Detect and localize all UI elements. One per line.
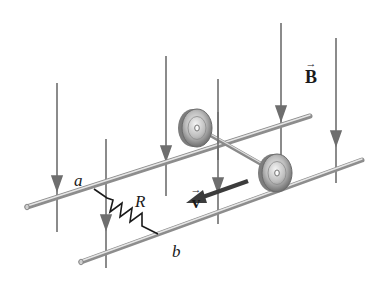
vector-arrow-icon: → [303,60,319,67]
field-line-1-arrowhead [52,176,62,190]
label-v: v [192,193,201,212]
field-line-3-arrowhead [161,146,171,160]
magnetic-induction-diagram [0,0,376,283]
field-line-5-arrowhead [276,106,286,120]
label-velocity: → v [189,186,203,211]
vector-arrow-icon: → [189,186,203,193]
label-rail-b: b [172,243,181,260]
label-resistor: R [135,193,145,210]
field-line-6-arrowhead [331,131,341,145]
field-line-2-arrowhead [101,215,111,229]
label-rail-a: a [74,172,83,189]
label-B: B [305,67,317,87]
wheel-left [178,109,212,147]
wheel-right [258,154,292,192]
label-magnetic-field: → B [303,60,319,86]
resistor-R [94,189,158,234]
